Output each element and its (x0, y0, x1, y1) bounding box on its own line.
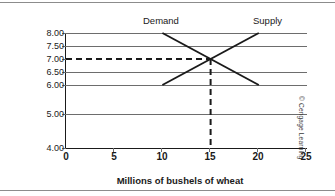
y-tick-label-5-00: 5.00 (36, 110, 64, 119)
y-tick-label-8-00: 8.00 (36, 29, 64, 38)
figure-bottom-rule (0, 190, 335, 191)
gridline-6-50 (66, 72, 307, 73)
x-axis-line (65, 148, 307, 149)
y-tick-label-6-50: 6.50 (36, 68, 64, 77)
plot-area (66, 33, 307, 148)
curve-label-supply: Supply (253, 15, 282, 26)
y-tick-label-7-00: 7.00 (36, 55, 64, 64)
y-axis-line (65, 33, 66, 149)
gridline-8-00 (66, 33, 307, 34)
gridline-5-00 (66, 114, 307, 115)
x-tick-label-10: 10 (150, 152, 174, 162)
copyright-credit: © Cengage Learning (298, 96, 305, 160)
x-tick-label-5: 5 (102, 152, 126, 162)
x-tick-label-20: 20 (246, 152, 270, 162)
x-tick-label-0: 0 (54, 152, 78, 162)
x-axis-title: Millions of bushels of wheat (60, 175, 300, 186)
gridline-6-00 (66, 85, 307, 86)
supply-demand-chart-figure: Demand Supply Price per bushel of wheat … (0, 0, 335, 196)
y-axis-title: Price per bushel of wheat (in dollars) (0, 0, 10, 14)
x-tick-label-15: 15 (198, 152, 222, 162)
y-tick-label-6-00: 6.00 (36, 81, 64, 90)
y-axis-title-line-2: wheat (in dollars) (0, 0, 10, 14)
gridline-7-50 (66, 46, 307, 47)
y-tick-label-7-50: 7.50 (36, 42, 64, 51)
figure-top-rule (0, 2, 335, 3)
curve-label-demand: Demand (143, 15, 179, 26)
